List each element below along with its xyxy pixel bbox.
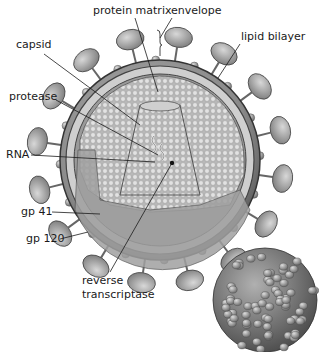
label-text: gp 120: [26, 232, 64, 245]
envelope-bracket: [157, 30, 162, 56]
virion-body: [60, 60, 260, 270]
label-text: protein matrix: [93, 4, 172, 17]
label-text: reverse: [82, 274, 124, 287]
hiv-virion-diagram: protein matrixenvelopelipid bilayercapsi…: [0, 0, 319, 352]
label-text: capsid: [16, 38, 52, 51]
label-text: lipid bilayer: [241, 30, 306, 43]
label-text: RNA: [6, 148, 30, 161]
label-text: protease: [9, 90, 58, 103]
label-text-line2: transcriptase: [82, 288, 155, 301]
exterior-virion: [213, 248, 319, 352]
label-text: envelope: [171, 4, 222, 17]
label-text: gp 41: [21, 205, 52, 218]
label-gp120: gp 120: [26, 232, 88, 245]
